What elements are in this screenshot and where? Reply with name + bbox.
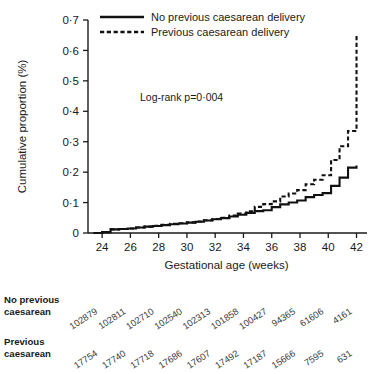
risk-value: 102313 [181,306,212,331]
x-axis-title: Gestational age (weeks) [164,259,288,271]
logrank-annotation: Log-rank p=0·004 [140,91,223,103]
risk-value: 102540 [153,306,184,331]
risk-row-label: Previous [4,336,45,347]
x-axis-tick-label: 26 [124,241,137,253]
y-axis-tick-label: 0·2 [62,166,79,178]
risk-value: 17740 [100,348,127,370]
y-axis-title: Cumulative proportion (%) [16,60,28,194]
risk-value: 15666 [270,348,297,370]
chart-canvas: 00·10·20·30·40·50·60·7Cumulative proport… [0,0,390,374]
risk-value: 4161 [331,306,354,326]
risk-value: 17754 [72,348,99,370]
risk-value: 61606 [298,306,325,328]
risk-value: 17607 [185,348,212,370]
legend-label-0: No previous caesarean delivery [151,11,306,23]
risk-row-label: No previous [4,294,59,305]
curve-no-previous-caesarean [94,165,357,233]
risk-value: 17187 [242,348,269,370]
y-axis-tick-label: 0·1 [62,197,79,209]
risk-value: 17686 [157,348,184,370]
risk-value: 101858 [209,306,240,331]
risk-row-label: caesarean [4,348,51,359]
survival-curve-figure: 00·10·20·30·40·50·60·7Cumulative proport… [0,0,390,374]
x-axis-tick-label: 36 [265,241,278,253]
risk-value: 102879 [68,306,99,331]
x-axis-tick-label: 24 [96,241,109,253]
y-axis-tick-label: 0·6 [62,45,79,57]
risk-value: 7595 [303,348,326,368]
risk-value: 17492 [213,348,240,370]
risk-value: 94365 [270,306,297,328]
y-axis-tick-label: 0·4 [62,105,79,117]
risk-value: 631 [335,348,353,365]
x-axis-tick-label: 28 [152,241,165,253]
risk-value: 102811 [97,306,128,331]
x-axis-tick-label: 40 [322,241,335,253]
x-axis-tick-label: 34 [237,241,250,253]
legend-label-1: Previous caesarean delivery [151,26,290,38]
y-axis-tick-label: 0 [73,227,79,239]
x-axis-tick-label: 42 [350,241,363,253]
risk-row-label: caesarean [4,306,51,317]
y-axis-tick-label: 0·3 [62,136,79,148]
risk-value: 100427 [237,306,268,331]
x-axis-tick-label: 30 [181,241,194,253]
x-axis-tick-label: 32 [209,241,222,253]
y-axis-tick-label: 0·7 [62,14,79,26]
risk-value: 17718 [129,348,156,370]
x-axis-tick-label: 38 [294,241,307,253]
risk-value: 102710 [124,306,155,331]
y-axis-tick-label: 0·5 [62,75,79,87]
curve-previous-caesarean [94,35,357,233]
